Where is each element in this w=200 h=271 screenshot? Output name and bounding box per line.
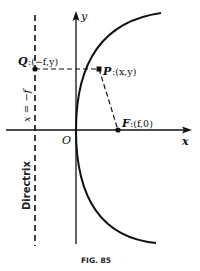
point-q — [32, 66, 37, 71]
figure-caption: FIG. 85 — [81, 256, 111, 265]
segment-pf — [99, 69, 118, 130]
point-q-coords: :(−f,y) — [28, 56, 58, 67]
directrix-equation-label: x = −f — [21, 87, 32, 122]
x-axis-label: x — [181, 135, 189, 148]
parabola-diagram: y x O Q :(−f,y) P :(x,y) F :(f,0) x = −f… — [0, 0, 200, 271]
point-f — [115, 127, 120, 132]
directrix-name-label: Directrix — [21, 160, 32, 210]
point-q-name: Q — [18, 55, 28, 68]
point-p — [97, 67, 102, 72]
point-p-name: P — [102, 65, 112, 78]
point-f-coords: :(f,0) — [130, 118, 153, 129]
y-axis-label: y — [80, 10, 88, 23]
origin-label: O — [62, 134, 71, 147]
point-p-coords: :(x,y) — [112, 66, 136, 77]
